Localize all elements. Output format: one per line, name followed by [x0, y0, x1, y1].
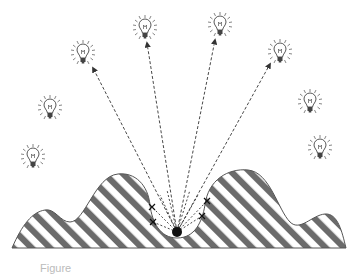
lightbulb-icon	[71, 40, 95, 64]
lightbulb-icon	[298, 89, 322, 113]
bulbs-layer	[21, 12, 332, 168]
lightbulb-icon	[21, 144, 45, 168]
viewpoint-dot	[172, 227, 182, 237]
lightbulb-icon	[133, 15, 157, 39]
lightbulb-icon	[38, 95, 62, 119]
lightbulb-icon	[308, 135, 332, 159]
lightbulb-icon	[208, 12, 232, 36]
figure-caption: Figure	[40, 262, 71, 274]
lightbulb-icon	[268, 39, 292, 63]
blocked-ray	[167, 190, 177, 232]
